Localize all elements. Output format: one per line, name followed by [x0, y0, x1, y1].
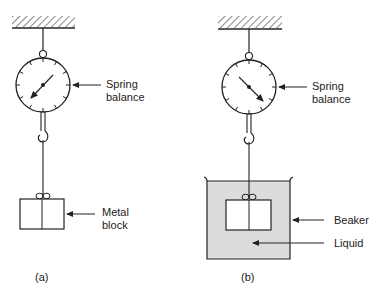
label-line: balance	[106, 91, 145, 104]
hook-a	[38, 112, 47, 142]
ceiling-b	[218, 16, 282, 29]
ceiling-a	[12, 16, 75, 28]
metal-block-b	[226, 200, 271, 230]
label-liquid: Liquid	[334, 237, 363, 250]
label-metal-block: Metal block	[102, 206, 129, 232]
metal-block-a	[20, 199, 64, 229]
figure-canvas	[0, 0, 372, 301]
label-line: Metal	[102, 206, 129, 219]
label-line: Spring	[312, 80, 351, 93]
ring-b	[246, 53, 253, 60]
spring-balance-dial-a	[16, 58, 70, 112]
label-beaker: Beaker	[334, 214, 369, 227]
caption-a: (a)	[35, 271, 48, 283]
label-line: Spring	[106, 78, 145, 91]
label-line: block	[102, 219, 129, 232]
label-spring-balance-b: Spring balance	[312, 80, 351, 106]
label-line: balance	[312, 93, 351, 106]
ring-a	[40, 51, 47, 58]
hook-b	[244, 114, 253, 144]
caption-b: (b)	[241, 271, 254, 283]
panel-a	[12, 16, 101, 229]
spring-balance-dial-b	[222, 60, 276, 114]
label-spring-balance-a: Spring balance	[106, 78, 145, 104]
panel-b	[204, 16, 324, 259]
